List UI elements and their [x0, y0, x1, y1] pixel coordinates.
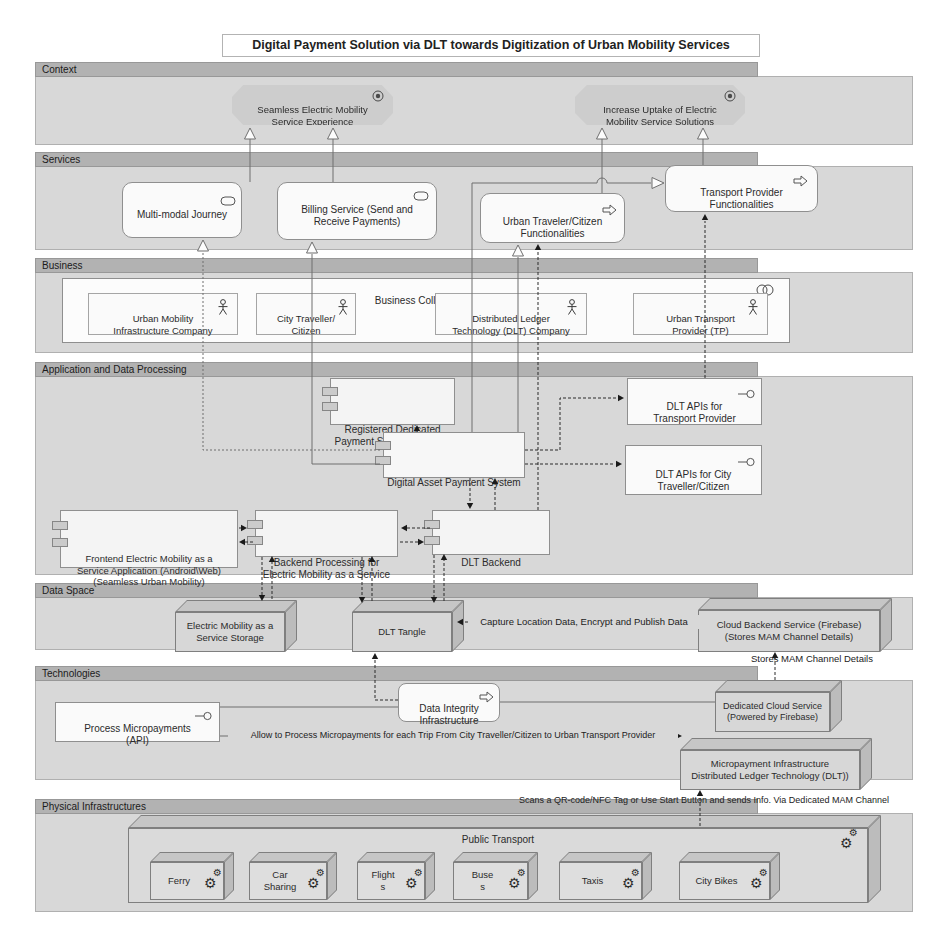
node-top-face — [150, 852, 234, 862]
actor-label: City Traveller/ Citizen — [277, 313, 335, 335]
component-tab — [247, 520, 263, 529]
goal-increase-uptake[interactable]: Increase Uptake of Electric Mobility Ser… — [575, 85, 745, 125]
actor-icon — [337, 299, 349, 316]
equipment-gear-icon: ⚙⚙ — [750, 870, 770, 892]
transport-mode-flights[interactable]: Flight s ⚙⚙ — [357, 862, 425, 900]
application-layer-label: Application and Data Processing — [35, 362, 758, 377]
note-stores-mam: Stores MAM Channel Details — [742, 653, 882, 664]
node-top-face — [249, 852, 337, 862]
component-digital-asset-payment-system[interactable]: Digital Asset Payment System — [383, 432, 525, 478]
transport-mode-ferry[interactable]: Ferry ⚙⚙ — [150, 862, 224, 900]
service-multimodal-journey[interactable]: Multi-modal Journey — [122, 182, 242, 238]
node-top-face — [128, 815, 881, 828]
actor-icon — [217, 299, 229, 316]
node-dlt-tangle[interactable]: DLT Tangle — [352, 612, 452, 652]
component-tab — [322, 387, 338, 396]
dlt-backend-label: DLT Backend — [461, 557, 521, 568]
node-top-face — [715, 680, 842, 692]
actor-city-traveller[interactable]: City Traveller/ Citizen — [256, 293, 356, 335]
component-tab — [52, 538, 68, 547]
actor-dlt-company[interactable]: Distributed Ledger Technology (DLT) Comp… — [435, 293, 587, 335]
equipment-gear-icon: ⚙⚙ — [508, 870, 528, 892]
node-micropayment-infrastructure[interactable]: Micropayment Infrastructure Distributed … — [680, 750, 860, 790]
diagram-title: Digital Payment Solution via DLT towards… — [222, 34, 760, 57]
node-emaas-storage[interactable]: Electric Mobility as a Service Storage — [175, 612, 285, 652]
interface-icon — [738, 457, 755, 467]
tangle-label: DLT Tangle — [378, 626, 426, 638]
goal-target-icon — [724, 90, 736, 102]
multimodal-label: Multi-modal Journey — [137, 209, 227, 220]
mode-label: Buse s — [472, 869, 494, 893]
equipment-gear-icon: ⚙⚙ — [204, 870, 224, 892]
dlt-api-citizen-label: DLT APIs for City Traveller/Citizen — [656, 469, 732, 492]
transport-mode-city-bikes[interactable]: City Bikes ⚙⚙ — [679, 862, 770, 900]
actor-label: Urban Mobility Infrastructure Company — [113, 313, 212, 335]
note-capture-location: Capture Location Data, Encrypt and Publi… — [468, 615, 700, 629]
component-process-micropayments[interactable]: Process Micropayments (API) — [55, 702, 220, 742]
service-billing[interactable]: Billing Service (Send and Receive Paymen… — [277, 182, 437, 240]
component-tab — [375, 456, 391, 465]
component-dlt-api-transport-provider[interactable]: DLT APIs for Transport Provider — [627, 378, 762, 425]
note-scans-qr: Scans a QR-code/NFC Tag or Use Start But… — [498, 795, 910, 805]
public-transport-label: Public Transport — [462, 834, 534, 847]
node-top-face — [559, 852, 652, 862]
component-frontend-emaas[interactable]: Frontend Electric Mobility as a Service … — [60, 510, 238, 568]
component-tab — [322, 402, 338, 411]
actor-urban-transport-provider[interactable]: Urban Transport Provider (TP) — [633, 293, 768, 335]
equipment-gear-icon: ⚙⚙ — [840, 830, 860, 852]
node-top-face — [453, 852, 538, 862]
context-layer-label: Context — [35, 62, 758, 77]
service-data-integrity-infrastructure[interactable]: Data Integrity Infrastructure — [398, 683, 500, 722]
component-payment-terminal[interactable]: Registered Dedicated Payment System Term… — [330, 378, 455, 425]
technologies-layer-label: Technologies — [35, 666, 758, 681]
actor-urban-mobility-company[interactable]: Urban Mobility Infrastructure Company — [88, 293, 238, 335]
process-arrow-icon — [479, 691, 494, 703]
node-dedicated-cloud-service[interactable]: Dedicated Cloud Service (Powered by Fire… — [715, 692, 830, 732]
component-tab — [424, 520, 440, 529]
process-arrow-icon — [602, 204, 617, 216]
context-layer-band — [35, 76, 913, 145]
service-urban-traveler-functionalities[interactable]: Urban Traveler/Citizen Functionalities — [480, 193, 625, 243]
actor-icon — [747, 299, 759, 316]
services-layer-label: Services — [35, 152, 758, 167]
daps-label: Digital Asset Payment System — [387, 477, 520, 488]
interface-icon — [738, 389, 755, 399]
process-arrow-icon — [793, 175, 808, 187]
goal-uptake-label: Increase Uptake of Electric Mobility Ser… — [603, 104, 717, 127]
note-allow-micropayments: Allow to Process Micropayments for each … — [228, 729, 678, 742]
business-layer-label: Business — [35, 258, 758, 273]
service-transport-provider-functionalities[interactable]: Transport Provider Functionalities — [665, 165, 818, 212]
equipment-gear-icon: ⚙⚙ — [405, 870, 425, 892]
node-top-face — [357, 852, 435, 862]
service-icon — [413, 191, 429, 201]
storage-label: Electric Mobility as a Service Storage — [187, 620, 274, 644]
goal-target-icon — [372, 90, 384, 102]
transport-mode-car-sharing[interactable]: Car Sharing ⚙⚙ — [249, 862, 327, 900]
component-tab — [52, 521, 68, 530]
cloud-backend-label: Cloud Backend Service (Firebase) (Stores… — [717, 619, 862, 643]
billing-label: Billing Service (Send and Receive Paymen… — [301, 204, 413, 227]
component-dlt-backend[interactable]: DLT Backend — [432, 510, 550, 555]
equipment-gear-icon: ⚙⚙ — [307, 870, 327, 892]
service-icon — [220, 196, 236, 206]
actor-label: Urban Transport Provider (TP) — [666, 313, 735, 335]
urban-traveler-func-label: Urban Traveler/Citizen Functionalities — [503, 216, 602, 239]
mode-label: Ferry — [168, 875, 190, 887]
micropayment-infra-label: Micropayment Infrastructure Distributed … — [691, 758, 849, 782]
mode-label: City Bikes — [695, 875, 737, 887]
actor-icon — [566, 299, 578, 316]
node-top-face — [679, 852, 780, 862]
transport-mode-taxis[interactable]: Taxis ⚙⚙ — [559, 862, 642, 900]
node-cloud-backend-service[interactable]: Cloud Backend Service (Firebase) (Stores… — [698, 610, 880, 652]
frontend-label: Frontend Electric Mobility as a Service … — [77, 553, 221, 587]
goal-seamless-mobility[interactable]: Seamless Electric Mobility Service Exper… — [232, 85, 393, 125]
actor-label: Distributed Ledger Technology (DLT) Comp… — [452, 313, 570, 335]
node-top-face — [680, 738, 872, 750]
component-backend-emaas[interactable]: Backend Processing for Electric Mobility… — [255, 510, 398, 557]
node-top-face — [352, 600, 464, 612]
dedicated-cloud-label: Dedicated Cloud Service (Powered by Fire… — [723, 701, 822, 724]
transport-mode-buses[interactable]: Buse s ⚙⚙ — [453, 862, 528, 900]
mode-label: Car Sharing — [264, 869, 297, 893]
component-dlt-api-citizen[interactable]: DLT APIs for City Traveller/Citizen — [625, 445, 762, 495]
backend-label: Backend Processing for Electric Mobility… — [263, 557, 390, 580]
